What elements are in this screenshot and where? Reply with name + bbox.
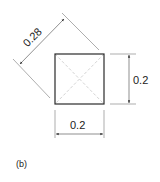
width-label: 0.2 bbox=[70, 119, 85, 131]
panel-label: (b) bbox=[16, 159, 27, 169]
diagonal-label: 0.28 bbox=[20, 25, 44, 49]
square-diagonals bbox=[55, 54, 104, 104]
square-dimension-diagram: 0.2 0.2 0.28 (b) bbox=[0, 0, 160, 182]
height-dimension: 0.2 bbox=[110, 54, 148, 104]
width-dimension: 0.2 bbox=[55, 110, 104, 138]
height-label: 0.2 bbox=[133, 74, 148, 86]
